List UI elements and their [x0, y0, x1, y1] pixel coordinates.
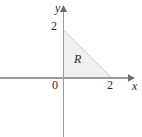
coordinate-diagram: y 2 0 2 x R	[0, 0, 142, 137]
x-axis-label: x	[132, 80, 137, 92]
origin-label: 0	[52, 79, 58, 91]
y-axis-label: y	[55, 2, 60, 14]
y-axis-arrow-icon	[60, 5, 67, 12]
region-r-shape	[64, 30, 113, 78]
diagram-canvas	[0, 0, 142, 137]
y-axis-tick-label-2: 2	[51, 20, 57, 32]
region-label: R	[74, 53, 81, 65]
x-axis-tick-label-2: 2	[107, 79, 113, 91]
